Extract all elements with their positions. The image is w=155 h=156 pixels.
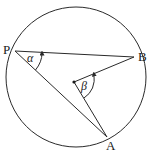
circle-angle-diagram: P B A α β [0, 0, 155, 156]
alpha-arc [36, 53, 43, 70]
angle-label-beta: β [80, 79, 87, 93]
center-point [72, 80, 75, 83]
circle [6, 7, 146, 147]
point-label-p: P [3, 42, 10, 57]
point-label-b: B [138, 49, 147, 64]
point-label-a: A [106, 138, 116, 153]
radius-oa [74, 82, 107, 137]
angle-label-alpha: α [27, 51, 34, 65]
